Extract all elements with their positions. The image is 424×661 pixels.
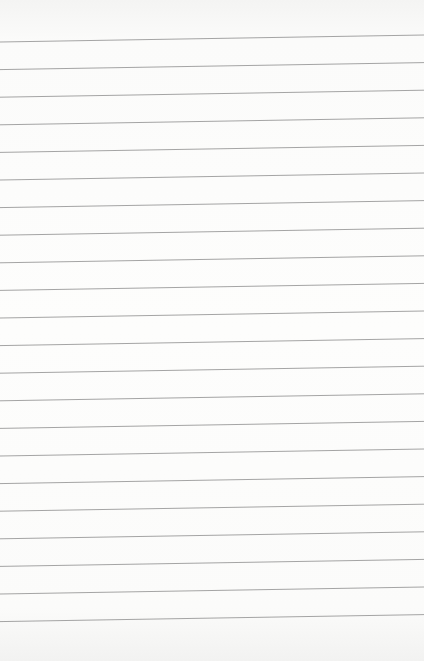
ruled-line <box>0 394 424 401</box>
ruled-line <box>0 201 424 208</box>
ruled-lines <box>0 0 424 661</box>
ruled-line <box>0 587 424 594</box>
ruled-line <box>0 366 424 373</box>
ruled-line <box>0 145 424 152</box>
ruled-line <box>0 615 424 622</box>
ruled-line <box>0 256 424 263</box>
ruled-line <box>0 173 424 180</box>
ruled-line <box>0 63 424 70</box>
ruled-line <box>0 311 424 318</box>
ruled-line <box>0 118 424 125</box>
ruled-line <box>0 504 424 511</box>
ruled-line <box>0 477 424 484</box>
ruled-line <box>0 283 424 290</box>
ruled-line <box>0 228 424 235</box>
ruled-line <box>0 339 424 346</box>
ruled-line <box>0 559 424 566</box>
ruled-line <box>0 35 424 42</box>
ruled-line <box>0 90 424 97</box>
lined-paper-sheet <box>0 0 424 661</box>
ruled-line <box>0 532 424 539</box>
ruled-line <box>0 449 424 456</box>
ruled-line <box>0 421 424 428</box>
